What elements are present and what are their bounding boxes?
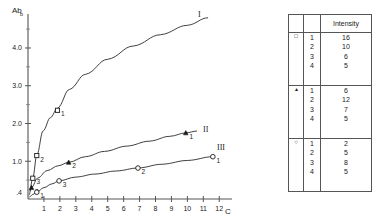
table-index-value: 2 bbox=[304, 95, 320, 105]
table-intensity-value: 5 bbox=[321, 148, 371, 158]
x-tick-label: 10 bbox=[183, 205, 191, 212]
table-intensity-value: 5 bbox=[321, 167, 371, 177]
x-tick-label: 1 bbox=[42, 205, 46, 212]
chart-svg: 1.02.03.04.0.4 123456789101112 Ab b C 32… bbox=[0, 0, 238, 223]
curve-end-label: I bbox=[198, 10, 201, 19]
table-index-cell: 1234 bbox=[304, 32, 321, 85]
table-intensity-value: 5 bbox=[321, 61, 371, 71]
y-tick-label: 4.0 bbox=[12, 44, 22, 51]
table-index-value: 4 bbox=[304, 167, 320, 177]
intensity-table-body: Intensity□1234161065▴123461275○12342585 bbox=[289, 15, 372, 192]
x-tick-label: 11 bbox=[200, 205, 207, 212]
table-index-value: 1 bbox=[304, 33, 320, 43]
point-label: 3 bbox=[63, 181, 67, 188]
x-tick-label: 3 bbox=[74, 205, 78, 212]
table-header-row: Intensity bbox=[289, 15, 372, 33]
point-label: 1 bbox=[216, 157, 220, 164]
table-intensity-value: 5 bbox=[321, 114, 371, 124]
table-index-value: 1 bbox=[304, 86, 320, 96]
table-intensity-value: 16 bbox=[321, 33, 371, 43]
marker-open-square bbox=[55, 108, 59, 112]
point-label: 3 bbox=[36, 178, 40, 185]
table-row: ▴123461275 bbox=[289, 85, 372, 138]
table-header-intensity: Intensity bbox=[321, 15, 372, 33]
table-row: □1234161065 bbox=[289, 32, 372, 85]
table-index-cell: 1234 bbox=[304, 85, 321, 138]
table-intensity-value: 12 bbox=[321, 95, 371, 105]
table-intensity-cell: 61275 bbox=[321, 85, 372, 138]
marker-open-circle bbox=[211, 154, 216, 159]
point-label: 1 bbox=[40, 192, 44, 199]
intensity-table: Intensity□1234161065▴123461275○12342585 bbox=[288, 14, 372, 192]
point-label: 1 bbox=[189, 133, 193, 140]
table-index-cell: 1234 bbox=[304, 138, 321, 191]
table-symbol-open-circle: ○ bbox=[289, 138, 304, 191]
y-tick-label: 2.0 bbox=[12, 120, 22, 127]
table-intensity-value: 6 bbox=[321, 52, 371, 62]
y-axis-label-sub: b bbox=[20, 11, 23, 17]
chart-curve-labels: IIIIII bbox=[198, 10, 225, 152]
x-tick-label: 7 bbox=[138, 205, 142, 212]
x-tick-label: 6 bbox=[122, 205, 126, 212]
x-tick-label: 8 bbox=[154, 205, 158, 212]
table-intensity-value: 6 bbox=[321, 86, 371, 96]
marker-open-circle bbox=[136, 166, 141, 171]
chart-markers: 3213211321 bbox=[29, 108, 220, 199]
table-index-value: 4 bbox=[304, 114, 320, 124]
point-label: 1 bbox=[61, 110, 65, 117]
x-axis-label: C bbox=[225, 207, 231, 216]
marker-open-square bbox=[31, 176, 35, 180]
axes bbox=[28, 14, 232, 199]
table-index-value: 4 bbox=[304, 61, 320, 71]
x-tick-label: 4 bbox=[90, 205, 94, 212]
curve-I bbox=[30, 18, 209, 191]
table-intensity-value: 2 bbox=[321, 139, 371, 149]
x-tick-label: 2 bbox=[58, 205, 62, 212]
x-tick-label: 9 bbox=[169, 205, 173, 212]
table-intensity-cell: 161065 bbox=[321, 32, 372, 85]
table-index-value: 3 bbox=[304, 105, 320, 115]
curve-III bbox=[29, 157, 213, 197]
table-index-value: 2 bbox=[304, 42, 320, 52]
marker-open-circle bbox=[57, 179, 62, 184]
table-symbol-open-square: □ bbox=[289, 32, 304, 85]
x-tick-label: 5 bbox=[106, 205, 110, 212]
figure-root: 1.02.03.04.0.4 123456789101112 Ab b C 32… bbox=[0, 0, 380, 223]
intensity-table-wrap: Intensity□1234161065▴123461275○12342585 bbox=[288, 14, 372, 192]
chart-plot-area: 1.02.03.04.0.4 123456789101112 Ab b C 32… bbox=[0, 0, 238, 223]
table-index-value: 2 bbox=[304, 148, 320, 158]
table-intensity-cell: 2585 bbox=[321, 138, 372, 191]
table-intensity-value: 10 bbox=[321, 42, 371, 52]
table-index-value: 3 bbox=[304, 158, 320, 168]
marker-open-square bbox=[35, 153, 39, 157]
y-tick-label: 3.0 bbox=[12, 82, 22, 89]
y-origin-label: .4 bbox=[16, 189, 22, 196]
curve-end-label: II bbox=[203, 125, 209, 134]
table-index-value: 3 bbox=[304, 52, 320, 62]
table-header-idx bbox=[304, 15, 321, 33]
table-intensity-value: 7 bbox=[321, 105, 371, 115]
table-symbol-filled-triangle: ▴ bbox=[289, 85, 304, 138]
x-axis-ticks: 123456789101112 bbox=[42, 196, 223, 212]
point-label: 2 bbox=[72, 162, 76, 169]
curve-end-label: III bbox=[217, 143, 225, 152]
table-index-value: 1 bbox=[304, 139, 320, 149]
point-label: 2 bbox=[142, 168, 146, 175]
x-tick-label: 12 bbox=[215, 205, 223, 212]
point-label: 2 bbox=[40, 156, 44, 163]
y-tick-label: 1.0 bbox=[12, 158, 22, 165]
marker-open-circle bbox=[34, 190, 39, 195]
table-row: ○12342585 bbox=[289, 138, 372, 191]
chart-curves bbox=[29, 18, 213, 197]
table-intensity-value: 8 bbox=[321, 158, 371, 168]
table-header-sym bbox=[289, 15, 304, 33]
